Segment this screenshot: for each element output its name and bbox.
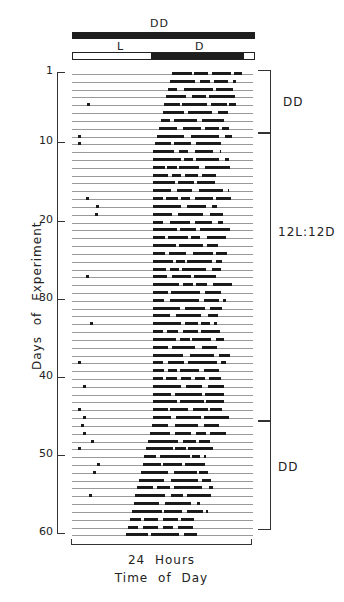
activity-bout (190, 354, 215, 357)
activity-bout (153, 189, 171, 192)
activity-bout (196, 283, 207, 286)
activity-bout (161, 119, 170, 122)
activity-bout (193, 252, 214, 255)
activity-mark (86, 275, 89, 278)
activity-bout (170, 221, 190, 224)
activity-bout (137, 486, 153, 489)
activity-bout (153, 416, 170, 419)
condition-label-dd-2: DD (278, 460, 298, 474)
activity-bout (164, 510, 182, 513)
activity-bout (234, 72, 242, 75)
activity-bout (178, 526, 193, 529)
activity-bout (204, 424, 218, 427)
constant-dark-bar (72, 32, 255, 39)
activity-bout (208, 314, 218, 317)
activity-bout (153, 322, 181, 325)
activity-bout (163, 111, 184, 114)
activity-bout (195, 377, 205, 380)
activity-bout (188, 111, 213, 114)
activity-bout (179, 166, 199, 169)
activity-bout (212, 72, 231, 75)
activity-bout (179, 150, 189, 153)
activity-bout (153, 369, 164, 372)
activity-bout (134, 502, 160, 505)
activity-bout (206, 400, 224, 403)
bracket-light-dark (258, 132, 271, 422)
activity-bout (216, 88, 233, 91)
activity-bout (202, 479, 211, 482)
y-tick (57, 455, 65, 456)
activity-bout (175, 432, 191, 435)
activity-bout (157, 135, 184, 138)
activity-mark (87, 103, 90, 106)
activity-bout (157, 486, 170, 489)
activity-bout (191, 135, 219, 138)
activity-bout (194, 72, 207, 75)
activity-bout (221, 361, 226, 364)
activity-bout (216, 260, 222, 263)
activity-bout (176, 314, 201, 317)
activity-bout (183, 440, 196, 443)
activity-mark (97, 463, 100, 466)
activity-bout (225, 135, 232, 138)
activity-bout (202, 174, 216, 177)
activity-bout (143, 526, 158, 529)
activity-bout (153, 385, 181, 388)
activity-mark (83, 416, 86, 419)
activity-bout (166, 377, 177, 380)
activity-bout (130, 518, 141, 521)
activity-mark (83, 432, 86, 435)
activity-bout (187, 510, 203, 513)
activity-bout (153, 377, 163, 380)
activity-bout (153, 338, 176, 341)
activity-bout (141, 471, 168, 474)
activity-bout (181, 197, 190, 200)
activity-bout (201, 330, 220, 333)
activity-bout (204, 416, 230, 419)
activity-bout (204, 299, 219, 302)
activity-bout (178, 181, 195, 184)
bracket-dd-1 (258, 70, 271, 134)
activity-bout (153, 361, 162, 364)
activity-bout (207, 244, 218, 247)
activity-bout (184, 88, 213, 91)
activity-bout (160, 455, 190, 458)
activity-bout (153, 158, 181, 161)
activity-bout (176, 260, 185, 263)
y-axis-title: Days of Experiment (30, 222, 44, 370)
activity-bout (171, 479, 199, 482)
activity-bout (209, 95, 236, 98)
activity-bout (180, 338, 190, 341)
activity-mark (95, 213, 98, 216)
activity-mark (89, 494, 92, 497)
activity-bout (153, 393, 170, 396)
activity-mark (78, 447, 81, 450)
y-tick (57, 533, 65, 534)
activity-bout (209, 486, 213, 489)
activity-bout (181, 518, 195, 521)
activity-bout (144, 518, 158, 521)
activity-bout (185, 307, 205, 310)
activity-bout (169, 252, 186, 255)
activity-mark (83, 385, 86, 388)
activity-bout (185, 174, 198, 177)
activity-bout (163, 463, 182, 466)
activity-bout (207, 236, 226, 239)
activity-bout (151, 533, 179, 536)
activity-mark (78, 408, 81, 411)
x-axis-title: Time of Day (71, 571, 252, 585)
activity-bout (219, 354, 230, 357)
activity-bout (197, 502, 200, 505)
activity-bout (174, 486, 202, 489)
activity-mark (93, 471, 96, 474)
activity-bout (159, 127, 177, 130)
activity-mark (78, 361, 81, 364)
activity-bout (128, 526, 138, 529)
activity-bout (216, 197, 230, 200)
activity-bout (153, 330, 162, 333)
activity-bout (222, 127, 230, 130)
activity-bout (153, 260, 172, 263)
activity-bout (170, 408, 188, 411)
y-tick (57, 72, 65, 73)
y-tick-label: 10 (27, 134, 53, 147)
